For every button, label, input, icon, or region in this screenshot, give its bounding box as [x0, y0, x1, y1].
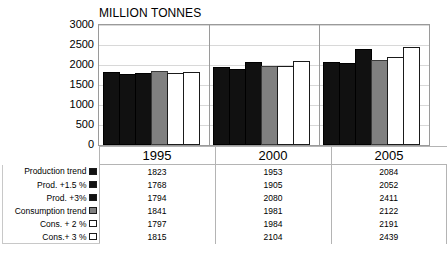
y-axis-tick: 2000: [70, 58, 94, 70]
table-cell: 1953: [215, 165, 331, 179]
table-cell: 2191: [331, 217, 447, 230]
table-corner-cell: [3, 147, 100, 165]
bar: [229, 69, 246, 145]
legend-item: Cons.+ 3 %: [3, 230, 100, 244]
bar: [151, 71, 168, 145]
table-cell: 1981: [215, 204, 331, 217]
bar: [213, 67, 230, 145]
y-axis-tick: 2500: [70, 38, 94, 50]
y-axis-tick: 3000: [70, 18, 94, 30]
table-row: Cons. + 2 %179719842191: [3, 217, 447, 230]
column-header-1995: 1995: [99, 147, 215, 165]
y-axis-tick: 500: [76, 118, 94, 130]
bar: [119, 74, 136, 145]
chart-title: MILLION TONNES: [99, 6, 201, 20]
legend-label: Prod. +3%: [47, 193, 87, 203]
table-cell: 2104: [215, 230, 331, 244]
chart-container: MILLION TONNES 300025002000150010005000 …: [0, 0, 447, 261]
y-axis: 300025002000150010005000: [30, 24, 94, 146]
y-axis-tick: 1500: [70, 78, 94, 90]
bar: [371, 60, 388, 145]
legend-swatch-icon: [89, 207, 97, 214]
table-cell: 1768: [99, 178, 215, 191]
legend-item: Cons. + 2 %: [3, 217, 100, 230]
plot-area: [98, 24, 430, 146]
table-row: Cons.+ 3 %181521042439: [3, 230, 447, 244]
table-row: Prod. +1.5 %176819052052: [3, 178, 447, 191]
bar: [167, 73, 184, 145]
plot-inner: [99, 25, 429, 145]
table-row: Consumption trend184119812122: [3, 204, 447, 217]
table-cell: 2084: [331, 165, 447, 179]
data-table: 199520002005Production trend182319532084…: [2, 146, 447, 244]
bar-group-2005: [323, 25, 425, 145]
bar: [355, 49, 372, 145]
legend-swatch-icon: [89, 220, 97, 227]
column-header-2000: 2000: [215, 147, 331, 165]
legend-swatch-icon: [89, 233, 97, 240]
table-cell: 1797: [99, 217, 215, 230]
table-cell: 1823: [99, 165, 215, 179]
bar: [403, 47, 420, 145]
bar: [277, 66, 294, 145]
table-cell: 1794: [99, 191, 215, 204]
table-cell: 2122: [331, 204, 447, 217]
legend-item: Consumption trend: [3, 204, 100, 217]
table-cell: 1815: [99, 230, 215, 244]
table-cell: 2439: [331, 230, 447, 244]
bar: [261, 66, 278, 145]
bar: [339, 63, 356, 145]
bar: [135, 73, 152, 145]
table-cell: 1841: [99, 204, 215, 217]
bar-group-2000: [213, 25, 315, 145]
table-cell: 2411: [331, 191, 447, 204]
column-header-2005: 2005: [331, 147, 447, 165]
legend-label: Cons. + 2 %: [40, 219, 87, 229]
legend-item: Production trend: [3, 165, 100, 179]
bar-group-1995: [103, 25, 205, 145]
table-cell: 1984: [215, 217, 331, 230]
legend-label: Cons.+ 3 %: [42, 232, 86, 242]
bar: [245, 62, 262, 145]
legend-swatch-icon: [89, 194, 97, 201]
bar: [103, 72, 120, 145]
group-separator: [209, 25, 210, 145]
legend-item: Prod. +1.5 %: [3, 178, 100, 191]
table-cell: 2080: [215, 191, 331, 204]
bar: [387, 57, 404, 145]
table-cell: 1905: [215, 178, 331, 191]
table-header-row: 199520002005: [3, 147, 447, 165]
legend-item: Prod. +3%: [3, 191, 100, 204]
group-separator: [319, 25, 320, 145]
legend-swatch-icon: [89, 181, 97, 188]
bar: [293, 61, 310, 145]
y-axis-tick: 1000: [70, 98, 94, 110]
bar: [323, 62, 340, 145]
legend-swatch-icon: [89, 168, 97, 175]
bar: [183, 72, 200, 145]
table-row: Production trend182319532084: [3, 165, 447, 179]
table-cell: 2052: [331, 178, 447, 191]
legend-label: Prod. +1.5 %: [37, 180, 86, 190]
legend-label: Consumption trend: [15, 206, 87, 216]
table-row: Prod. +3%179420802411: [3, 191, 447, 204]
legend-label: Production trend: [24, 166, 86, 176]
